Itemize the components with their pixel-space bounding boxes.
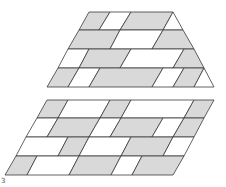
trapezoid-tiling [47,12,214,87]
parallelogram-tiling [5,100,214,175]
parallelogram-tile-white [121,100,194,118]
trapezoid-tile-gray [89,68,163,87]
figure-label: 3 [1,177,5,185]
tiling-figure [0,0,226,187]
